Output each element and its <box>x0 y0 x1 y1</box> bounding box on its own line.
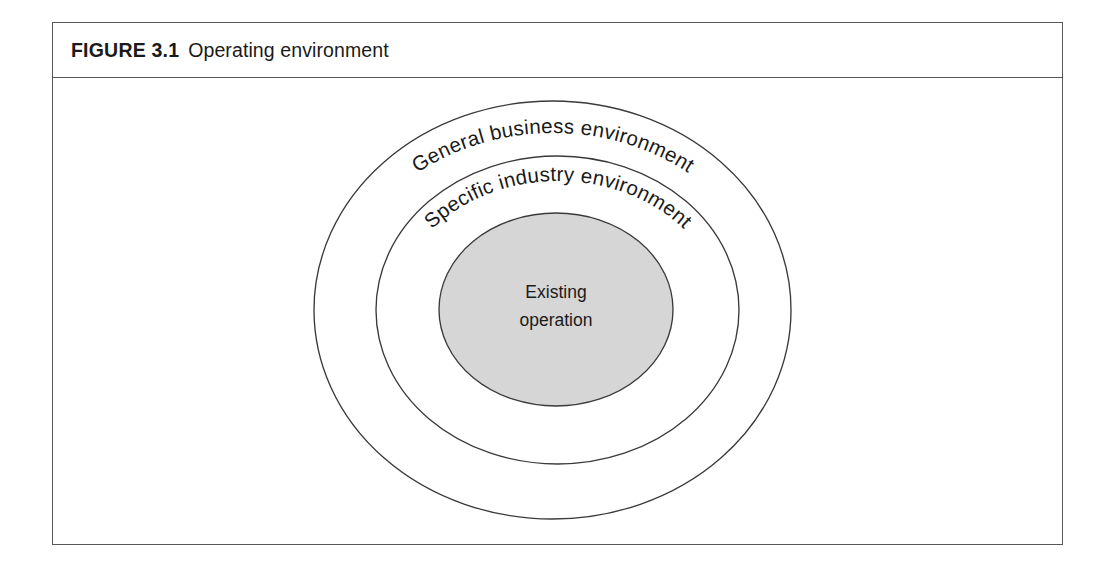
figure-root: FIGURE 3.1Operating environment General … <box>0 0 1117 575</box>
figure-body: General business environment Specific in… <box>53 78 1062 544</box>
core-label-line1: Existing <box>525 282 586 302</box>
core-label-line2: operation <box>520 310 593 330</box>
figure-frame: FIGURE 3.1Operating environment General … <box>52 22 1063 545</box>
concentric-environment-diagram: General business environment Specific in… <box>53 23 1064 544</box>
